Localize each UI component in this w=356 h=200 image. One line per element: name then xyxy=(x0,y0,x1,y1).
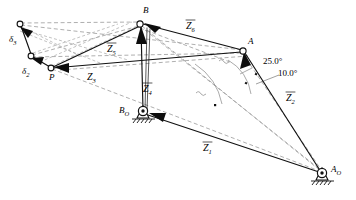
joint-B xyxy=(137,21,143,27)
dashed-B2-A0 xyxy=(145,30,322,171)
joint-delta3 xyxy=(17,21,23,27)
linkage-diagram-svg: δ3 δ2 P B A BO AO xyxy=(0,0,356,200)
B0-inner-dot xyxy=(141,109,144,112)
vector-label-Z1: Z1 xyxy=(203,142,212,155)
arrowhead-Z4 xyxy=(136,26,147,44)
joint-P xyxy=(48,65,54,71)
vector-label-Z4: Z4 xyxy=(143,83,153,96)
label-P-main: P xyxy=(48,72,55,82)
link-B0-A0 xyxy=(148,115,322,173)
Z5-sub: 5 xyxy=(113,49,117,56)
link-P-B xyxy=(53,26,140,67)
svg-text:Z3: Z3 xyxy=(87,71,97,84)
B0-hatching xyxy=(133,119,152,123)
A0-inner-dot xyxy=(320,171,323,174)
svg-text:Z1: Z1 xyxy=(203,142,212,155)
vector-label-Z6: Z6 xyxy=(186,20,196,33)
label-B0: BO xyxy=(119,105,130,117)
dashed-P-A0 xyxy=(52,69,322,172)
Z3-sub: 3 xyxy=(92,77,97,84)
vector-labels-group: Z1 Z2 Z3 Z4 xyxy=(87,20,296,155)
angle-arc-group xyxy=(195,60,279,106)
linkage-diagram-root: δ3 δ2 P B A BO AO xyxy=(0,0,356,200)
Z6-sub: 6 xyxy=(192,26,196,33)
Z2-sub: 2 xyxy=(292,98,296,105)
svg-text:Z2: Z2 xyxy=(286,92,296,105)
label-delta3-sub: 3 xyxy=(12,39,17,46)
Z4-sub: 4 xyxy=(149,89,153,96)
angle-tick-2 xyxy=(255,73,258,76)
solid-links-group xyxy=(21,24,322,173)
vector-label-Z5: Z5 xyxy=(107,43,117,56)
node-labels-group: δ3 δ2 P B A BO AO xyxy=(9,5,342,176)
vector-label-Z2: Z2 xyxy=(286,92,296,105)
arrowhead-delta3 xyxy=(20,27,33,38)
angle-crossbar xyxy=(240,68,252,74)
angle-label-25: 25.0° xyxy=(263,56,283,66)
label-A0: AO xyxy=(330,164,342,176)
Z1-sub: 1 xyxy=(209,148,212,155)
label-delta2-sub: 2 xyxy=(26,71,30,78)
A0-hatching xyxy=(312,181,331,185)
angle-tick-3 xyxy=(245,82,248,85)
label-B-main: B xyxy=(143,5,149,15)
angle-label-10: 10.0° xyxy=(278,68,298,78)
angle-labels-group: 25.0° 10.0° xyxy=(263,56,298,78)
label-A0-sub: O xyxy=(337,169,342,176)
angle-arc-outer xyxy=(195,64,222,104)
label-delta3: δ3 xyxy=(9,34,17,46)
angle-tick-4 xyxy=(214,104,216,106)
joints-group xyxy=(17,21,246,71)
joint-delta2 xyxy=(28,53,34,59)
label-delta2: δ2 xyxy=(22,66,30,78)
label-A: A xyxy=(247,36,254,46)
arc-tick-glyph-lower xyxy=(196,92,206,96)
dashed-d3-B xyxy=(21,22,140,23)
label-B0-sub: O xyxy=(125,110,130,117)
dashed-construction-lines xyxy=(20,22,322,172)
vector-label-Z3: Z3 xyxy=(87,71,97,84)
link-B0-B-aux2 xyxy=(147,29,150,110)
label-A-main: A xyxy=(247,36,254,46)
label-B: B xyxy=(143,5,149,15)
label-P: P xyxy=(48,72,55,82)
joint-A xyxy=(240,48,246,54)
link-P-A xyxy=(53,52,241,68)
svg-text:Z4: Z4 xyxy=(143,83,153,96)
dashed-d3-A xyxy=(21,25,243,50)
arrowhead-Z1 xyxy=(149,113,166,122)
svg-text:Z6: Z6 xyxy=(186,20,196,33)
arc-tick-glyph-upper xyxy=(219,60,229,64)
svg-text:Z5: Z5 xyxy=(107,43,117,56)
